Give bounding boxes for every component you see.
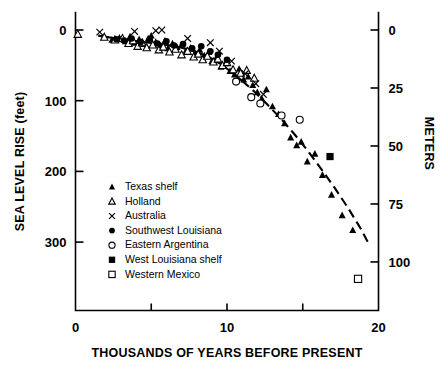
series-western-mexico: [354, 275, 361, 282]
legend-label: Holland: [125, 195, 161, 207]
y-tick-label: 100: [45, 94, 67, 109]
y-tick-label: 0: [59, 23, 66, 38]
y-axis-right-title: METERS: [422, 117, 436, 170]
legend-item: Eastern Argentina: [109, 238, 209, 250]
legend-label: West Louisiana shelf: [125, 253, 222, 265]
legend-label: Texas shelf: [125, 180, 178, 192]
x-axis-title: THOUSANDS OF YEARS BEFORE PRESENT: [92, 346, 363, 360]
legend-label: Southwest Louisiana: [125, 224, 222, 236]
sea-level-rise-chart: 0102001002003000255075100 Texas shelfHol…: [0, 0, 444, 365]
legend-item: Western Mexico: [109, 268, 200, 280]
x-tick-label: 20: [371, 320, 385, 335]
legend-item: West Louisiana shelf: [109, 253, 222, 265]
trend-solid-segment: [98, 36, 242, 81]
data-points: [74, 27, 362, 283]
legend-label: Eastern Argentina: [125, 238, 209, 250]
legend-item: Southwest Louisiana: [109, 224, 222, 236]
y-right-tick-label: 50: [389, 139, 403, 154]
y-right-tick-label: 100: [389, 255, 411, 270]
axis-ticks: [76, 30, 379, 311]
legend-label: Western Mexico: [125, 268, 200, 280]
legend-item: Texas shelf: [109, 180, 178, 192]
legend-item: Holland: [109, 195, 161, 207]
x-tick-label: 0: [72, 320, 79, 335]
x-tick-label: 10: [220, 320, 234, 335]
legend-label: Australia: [125, 209, 166, 221]
y-axis-title: SEA LEVEL RISE (feet): [13, 92, 27, 232]
legend-item: Australia: [109, 209, 166, 221]
y-right-tick-label: 25: [389, 81, 403, 96]
y-tick-label: 200: [45, 164, 67, 179]
y-right-tick-label: 75: [389, 197, 403, 212]
y-tick-label: 300: [45, 235, 67, 250]
series-eastern-argentina: [233, 78, 304, 123]
chart-canvas: 0102001002003000255075100 Texas shelfHol…: [0, 0, 444, 365]
series-west-louisiana-shelf: [326, 153, 333, 160]
y-right-tick-label: 0: [389, 23, 396, 38]
chart-legend: Texas shelfHollandAustraliaSouthwest Lou…: [109, 180, 222, 280]
